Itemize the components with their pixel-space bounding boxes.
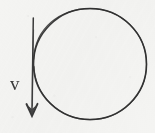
velocity-label: v xyxy=(10,74,20,93)
figure-root: v xyxy=(0,0,155,133)
figure-background xyxy=(0,0,155,133)
diagram-canvas xyxy=(0,0,155,133)
